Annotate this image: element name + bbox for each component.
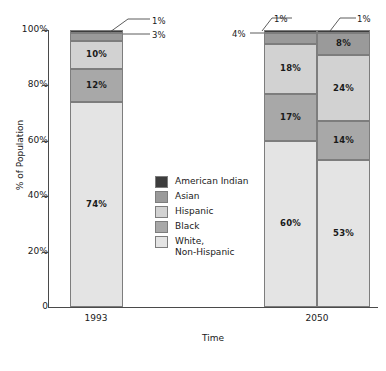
legend-swatch: [155, 236, 168, 248]
legend-label: Black: [175, 221, 199, 232]
callout-1993-american-indian: 1%: [152, 17, 166, 26]
legend-item-black[interactable]: Black: [155, 221, 259, 233]
y-axis-line: [48, 30, 49, 307]
callout-2050a-asian: 4%: [232, 30, 246, 39]
x-axis-title: Time: [48, 333, 378, 343]
segment-asian[interactable]: [70, 33, 123, 41]
segment-american-indian[interactable]: [317, 30, 370, 33]
y-tick-mark: [42, 196, 48, 197]
segment-asian[interactable]: 8%: [317, 33, 370, 55]
segment-white-non-hispanic[interactable]: 53%: [317, 160, 370, 307]
segment-value-label: 17%: [280, 113, 301, 122]
segment-hispanic[interactable]: 10%: [70, 41, 123, 69]
stacked-bar-chart: 020%40%60%80%100% % of Population 74%12%…: [0, 0, 386, 371]
legend-swatch: [155, 176, 168, 188]
legend-item-white-non-hispanic[interactable]: White, Non-Hispanic: [155, 236, 259, 257]
segment-value-label: 10%: [86, 50, 107, 59]
segment-value-label: 53%: [333, 229, 354, 238]
segment-value-label: 24%: [333, 84, 354, 93]
segment-asian[interactable]: [264, 33, 317, 44]
legend-label: American Indian: [175, 176, 248, 187]
y-axis-title: % of Population: [15, 85, 25, 225]
segment-value-label: 12%: [86, 81, 107, 90]
y-tick-label: 0: [12, 302, 48, 311]
y-tick-mark: [42, 85, 48, 86]
segment-american-indian[interactable]: [264, 30, 317, 33]
segment-white-non-hispanic[interactable]: 60%: [264, 141, 317, 307]
segment-black[interactable]: 17%: [264, 94, 317, 141]
x-tick-label-1993: 1993: [66, 313, 126, 323]
legend-label: Asian: [175, 191, 200, 202]
segment-hispanic[interactable]: 24%: [317, 55, 370, 121]
segment-black[interactable]: 12%: [70, 69, 123, 102]
y-tick-20: 20%: [0, 252, 48, 253]
segment-value-label: 74%: [86, 200, 107, 209]
legend-item-american-indian[interactable]: American Indian: [155, 176, 259, 188]
segment-value-label: 60%: [280, 219, 301, 228]
callout-1993-asian: 3%: [152, 31, 166, 40]
callout-2050b-american-indian: 1%: [357, 15, 371, 24]
legend-swatch: [155, 206, 168, 218]
y-tick-0: 0: [0, 307, 48, 308]
y-tick-100: 100%: [0, 30, 48, 31]
segment-value-label: 14%: [333, 136, 354, 145]
y-tick-mark: [42, 252, 48, 253]
chart-legend: American IndianAsianHispanicBlackWhite, …: [155, 176, 259, 260]
bar-1993[interactable]: 74%12%10%: [70, 30, 123, 307]
bar-2050-b[interactable]: 53%14%24%8%: [317, 30, 370, 307]
legend-item-hispanic[interactable]: Hispanic: [155, 206, 259, 218]
bar-2050-a[interactable]: 60%17%18%: [264, 30, 317, 307]
legend-swatch: [155, 221, 168, 233]
callout-2050a-american-indian: 1%: [274, 15, 288, 24]
y-tick-mark: [42, 30, 48, 31]
legend-label: Hispanic: [175, 206, 213, 217]
segment-american-indian[interactable]: [70, 30, 123, 33]
segment-value-label: 8%: [336, 39, 351, 48]
x-tick-label-2050: 2050: [287, 313, 347, 323]
segment-hispanic[interactable]: 18%: [264, 44, 317, 94]
legend-swatch: [155, 191, 168, 203]
segment-black[interactable]: 14%: [317, 121, 370, 160]
segment-value-label: 18%: [280, 64, 301, 73]
legend-label: White, Non-Hispanic: [175, 236, 235, 257]
segment-white-non-hispanic[interactable]: 74%: [70, 102, 123, 307]
x-axis-line: [48, 307, 378, 308]
y-tick-mark: [42, 141, 48, 142]
legend-item-asian[interactable]: Asian: [155, 191, 259, 203]
